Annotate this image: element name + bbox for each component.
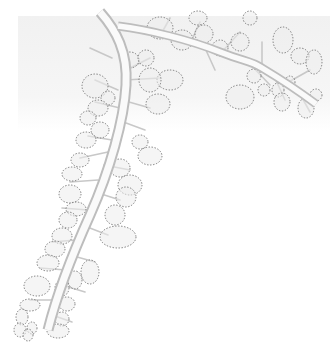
lobe <box>258 84 270 96</box>
lobe <box>80 111 96 125</box>
lobe <box>45 241 65 257</box>
twig <box>90 48 112 58</box>
branch-illustration <box>0 0 335 357</box>
lobe <box>59 212 77 228</box>
lobe <box>24 276 50 296</box>
lobe <box>132 135 148 149</box>
lobe <box>146 94 170 114</box>
lobe <box>105 205 125 225</box>
illustration-canvas: Grayscale illustration of two tubular br… <box>0 0 335 357</box>
lobe <box>243 11 257 25</box>
lobe <box>273 27 293 53</box>
lobe <box>81 260 99 284</box>
lobe <box>138 50 154 66</box>
lobe <box>62 167 82 181</box>
lobe <box>306 50 322 74</box>
lobe <box>139 68 161 92</box>
lobe <box>274 93 290 111</box>
lobe <box>189 11 207 25</box>
lobe <box>138 147 162 165</box>
lobe <box>116 187 136 207</box>
lobe <box>16 309 28 325</box>
lobe <box>76 132 96 148</box>
lobe <box>23 329 33 341</box>
lobe <box>37 255 59 271</box>
lobe <box>226 85 254 109</box>
lobe <box>100 226 136 248</box>
lobe <box>59 185 81 203</box>
lobe <box>231 33 249 51</box>
lobe <box>71 153 89 167</box>
